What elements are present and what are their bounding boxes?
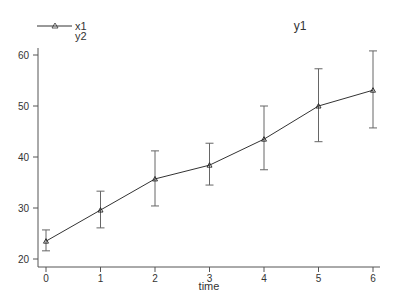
y-tick-label: 40 [18,152,30,163]
y-tick-label: 30 [18,203,30,214]
x-axis-label: time [199,280,220,292]
x-tick-label: 2 [152,273,158,284]
y-tick-label: 50 [18,101,30,112]
x-tick-label: 4 [261,273,267,284]
x-tick-label: 5 [316,273,322,284]
x-tick-label: 0 [43,273,49,284]
legend: x1 y2 [37,20,87,42]
axes: 20304050600123456 [18,48,380,284]
x-tick-label: 1 [98,273,104,284]
chart-title: y1 [294,19,307,33]
x-tick-label: 6 [370,273,376,284]
y-tick-label: 60 [18,50,30,61]
y-tick-label: 20 [18,254,30,265]
plot-area [42,51,377,251]
line-chart: x1 y2 y1 20304050600123456 time [0,0,395,301]
legend-label-y2: y2 [75,30,87,42]
series-line-x1 [46,90,373,241]
